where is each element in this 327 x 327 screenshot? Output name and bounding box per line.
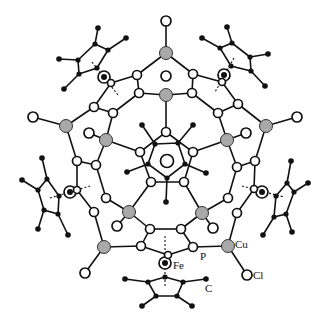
label-cu: Cu [235,239,248,250]
cp-top-right [202,27,268,92]
structure-svg [0,0,327,327]
cp-left [22,158,90,235]
label-cl: Cl [253,270,263,281]
label-c: C [205,283,212,294]
label-p: P [200,251,206,262]
molecule-diagram: Fe P Cu Cl C [0,0,327,327]
cp-top-left [59,28,126,95]
label-fe: Fe [173,260,184,271]
